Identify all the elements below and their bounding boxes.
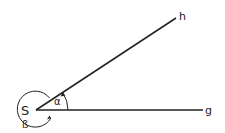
alpha-label: α xyxy=(54,96,61,107)
angle-diagram: S α ß g h xyxy=(0,0,225,133)
vertex-label: S xyxy=(21,103,29,118)
beta-label: ß xyxy=(22,119,28,130)
ray-g-label: g xyxy=(205,104,212,117)
ray-h-label: h xyxy=(179,10,186,23)
